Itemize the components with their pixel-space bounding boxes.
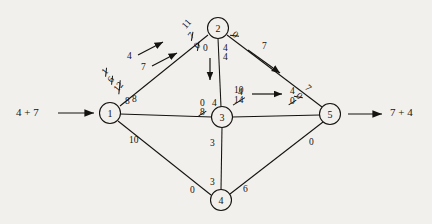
node-2-label: 2	[210, 24, 226, 34]
diagram-canvas: 1 2 3 4 5 4 + 7 7 + 4 4 7 7 4 1 6 12 8 1…	[0, 0, 432, 224]
edge-1-3-flow-old: 8	[200, 108, 205, 118]
edge-3-4-flow-top: 3	[210, 139, 215, 149]
node-5-label: 5	[322, 110, 338, 120]
edge-2-3	[218, 38, 221, 107]
edge-3-4	[221, 127, 222, 190]
augment-arrow-a	[138, 42, 163, 55]
edge-1-4-capacity: 10	[129, 136, 139, 146]
augment-label-a: 4	[127, 52, 132, 62]
edge-3-5-capacity-old: 14	[234, 96, 244, 106]
augment-arrow-b	[152, 53, 177, 66]
node-4-label: 4	[213, 196, 229, 206]
edge-3-5-flow-old: 0	[290, 97, 295, 107]
edge-1-4	[118, 121, 211, 195]
augment-label-b: 7	[141, 63, 146, 73]
edge-2-3-capacity-bottom: 4	[223, 53, 228, 63]
edge-4-5-flow-near-5: 0	[309, 138, 314, 148]
node-1-label: 1	[102, 109, 118, 119]
edge-2-3-residual: 4	[212, 99, 217, 109]
source-flow-label: 4 + 7	[16, 107, 39, 118]
augment-label-c: 7	[262, 42, 267, 52]
edge-1-3-capacity: 8	[132, 95, 137, 105]
sink-flow-label: 7 + 4	[390, 107, 413, 118]
node-3-label: 3	[214, 113, 230, 123]
edge-3-4-flow-bottom: 3	[210, 178, 215, 188]
augment-arrow-c	[248, 50, 280, 73]
edge-4-5-flow-left: 0	[190, 186, 195, 196]
edge-2-3-flow-top: 0	[203, 44, 208, 54]
edge-3-5	[232, 115, 320, 117]
edge-4-5-capacity: 6	[243, 185, 248, 195]
edge-1-2-capacity: 8	[125, 97, 130, 107]
